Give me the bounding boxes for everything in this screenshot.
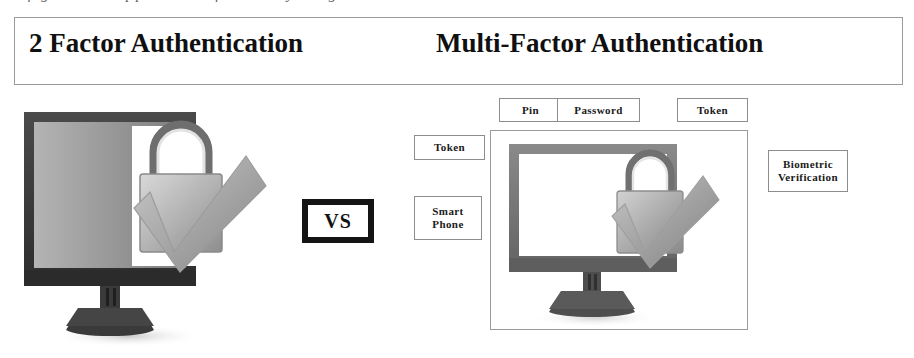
factor-chip-token-top[interactable]: Token bbox=[677, 98, 748, 122]
factor-chip-pin[interactable]: Pin bbox=[499, 98, 562, 122]
two-factor-illustration bbox=[22, 104, 290, 350]
monitor-icon bbox=[22, 104, 290, 350]
factor-chip-token-left-label: Token bbox=[415, 141, 484, 154]
monitor-base-top bbox=[66, 308, 154, 326]
cropped-caption-strip: figure 1 : Apparatus of security diagram bbox=[0, 0, 914, 13]
cropped-caption-text: figure 1 : Apparatus of security diagram bbox=[28, 0, 371, 3]
monitor-icon bbox=[505, 140, 745, 330]
vs-badge: VS bbox=[302, 199, 374, 243]
monitor-neck-line bbox=[588, 274, 591, 290]
factor-chip-token-left[interactable]: Token bbox=[414, 135, 485, 160]
heading-banner: 2 Factor Authentication Multi-Factor Aut… bbox=[14, 17, 903, 85]
factor-chip-smart-phone-line1: Smart bbox=[415, 205, 481, 218]
monitor-neck bbox=[583, 272, 601, 292]
monitor-neck-line bbox=[113, 288, 116, 306]
factor-chip-biometric-verification[interactable]: Biometric Verification bbox=[768, 150, 848, 192]
factor-chip-smart-phone-line2: Phone bbox=[415, 218, 481, 231]
factor-chip-biometric-line1: Biometric bbox=[769, 158, 847, 171]
heading-two-factor: 2 Factor Authentication bbox=[29, 28, 303, 59]
heading-multi-factor: Multi-Factor Authentication bbox=[436, 28, 763, 59]
comparison-figure: figure 1 : Apparatus of security diagram… bbox=[0, 0, 914, 358]
factor-chip-pin-label: Pin bbox=[500, 104, 561, 117]
monitor-neck-line bbox=[106, 288, 109, 306]
vs-label: VS bbox=[324, 210, 352, 233]
factor-chip-password-label: Password bbox=[558, 104, 639, 117]
monitor-base-top bbox=[549, 291, 635, 309]
factor-chip-biometric-line2: Verification bbox=[769, 171, 847, 184]
monitor-neck bbox=[100, 286, 120, 308]
multi-factor-illustration bbox=[505, 140, 745, 330]
factor-chip-smart-phone[interactable]: Smart Phone bbox=[414, 196, 482, 240]
monitor-neck-line bbox=[594, 274, 597, 290]
factor-chip-token-top-label: Token bbox=[678, 104, 747, 117]
factor-chip-password[interactable]: Password bbox=[557, 98, 640, 122]
monitor-chin bbox=[24, 270, 196, 286]
